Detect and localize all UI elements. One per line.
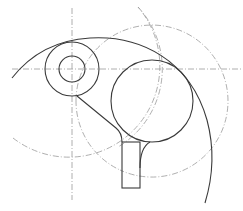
fillet-arc <box>140 142 150 168</box>
shank-rectangle <box>122 142 140 188</box>
construction-circle-right-lower <box>76 100 120 170</box>
construction-circle-left-upper <box>118 7 162 147</box>
technical-drawing <box>0 0 243 211</box>
construction-circle-left <box>13 7 160 157</box>
outer-profile-arc <box>12 38 212 203</box>
construction-circle-right <box>76 25 228 177</box>
